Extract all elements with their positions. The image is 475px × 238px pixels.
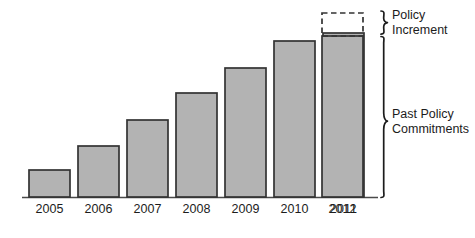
bar-2006 — [78, 146, 119, 197]
bar-2008 — [176, 93, 217, 197]
tick-label-2008: 2008 — [176, 203, 217, 216]
annotation-past-policy: Past Policy Commitments — [392, 107, 469, 138]
tick-label-2005: 2005 — [29, 203, 70, 216]
tick-label-2010: 2010 — [274, 203, 315, 216]
policy-increment-brace-icon — [381, 11, 387, 34]
tick-label-2009: 2009 — [225, 203, 266, 216]
annotation-policy-increment: Policy Increment — [392, 8, 448, 39]
bar-2012 — [322, 36, 363, 197]
tick-label-2007: 2007 — [127, 203, 168, 216]
tick-label-2012: 2012 — [322, 203, 363, 216]
annotation-policy-increment-line1: Policy — [392, 8, 448, 23]
bar-2007 — [127, 120, 168, 197]
bar-2010 — [274, 41, 315, 197]
tick-label-2006: 2006 — [78, 203, 119, 216]
bar-chart-figure: 2005 2006 2007 2008 2009 2010 2011 2012 … — [0, 0, 475, 238]
annotation-past-policy-line1: Past Policy — [392, 107, 469, 122]
bar-2009 — [225, 68, 266, 197]
past-policy-brace-icon — [381, 37, 387, 198]
annotation-past-policy-line2: Commitments — [392, 122, 469, 137]
bar-2005 — [29, 170, 70, 197]
bar-group — [29, 33, 364, 197]
annotation-policy-increment-line2: Increment — [392, 23, 448, 38]
